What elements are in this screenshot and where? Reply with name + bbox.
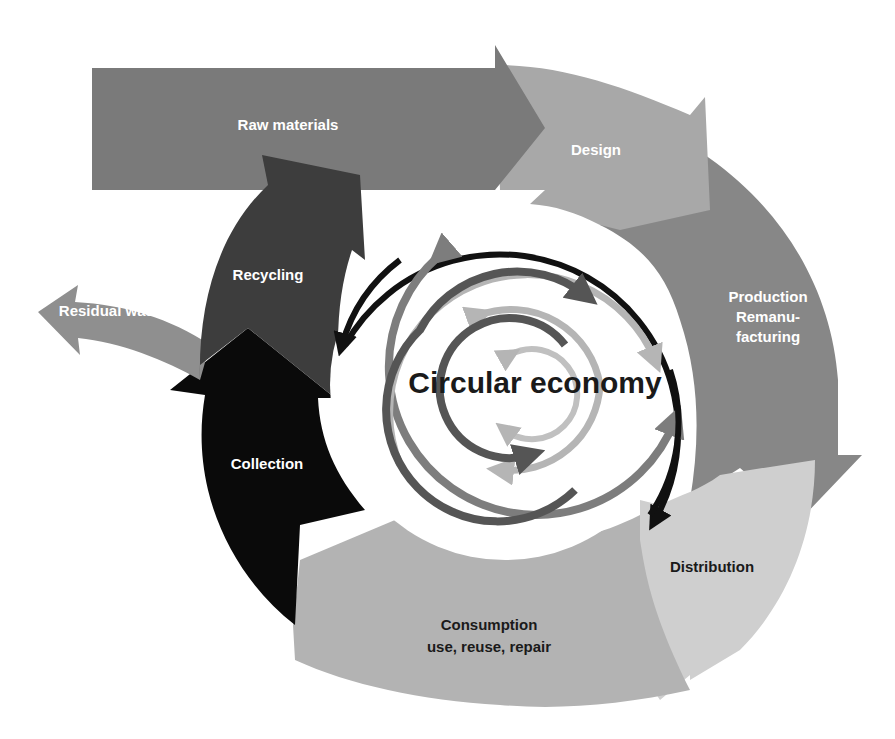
diagram-title: Circular economy xyxy=(408,366,662,399)
label-residual-waste: Residual waste xyxy=(59,302,167,319)
label-facturing: facturing xyxy=(736,328,800,345)
residual-waste-arrow xyxy=(38,285,210,380)
label-design: Design xyxy=(571,141,621,158)
label-remanu: Remanu- xyxy=(736,308,800,325)
label-recycling: Recycling xyxy=(233,266,304,283)
circular-economy-diagram: Raw materials Design Production Remanu- … xyxy=(0,0,895,739)
label-consumption-sub: use, reuse, repair xyxy=(427,638,551,655)
label-distribution: Distribution xyxy=(670,558,754,575)
label-collection: Collection xyxy=(231,455,304,472)
label-raw-materials: Raw materials xyxy=(238,116,339,133)
label-production: Production xyxy=(728,288,807,305)
label-consumption: Consumption xyxy=(441,616,538,633)
